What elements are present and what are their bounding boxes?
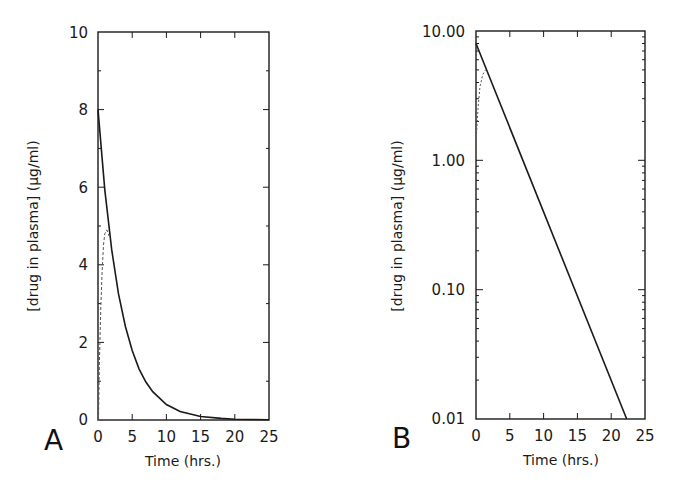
- y-tick-label: 0.10: [432, 281, 465, 299]
- x-tick-label: 10: [157, 428, 176, 446]
- x-tick-label: 0: [93, 428, 103, 446]
- y-tick-label: 8: [78, 101, 88, 119]
- panel-b-letter: B: [392, 422, 411, 455]
- panel-a-y-ticks: [98, 71, 269, 381]
- panel-b-dashed-curve: [477, 70, 486, 134]
- y-tick-label: 10.00: [422, 23, 465, 41]
- x-tick-label: 20: [225, 428, 244, 446]
- panel-a: 0 5 10 15 20 25 0 2 4 6 8 10 Time (hrs.)…: [25, 24, 279, 469]
- panel-a-letter: A: [44, 424, 63, 457]
- x-tick-label: 5: [127, 428, 137, 446]
- panel-a-x-ticks: [132, 32, 235, 420]
- panel-b: 0 5 10 15 20 25 0.01 0.10 1.00 10.00 Tim…: [389, 23, 655, 468]
- x-tick-label: 25: [259, 428, 278, 446]
- panel-a-x-axis-title: Time (hrs.): [144, 453, 221, 469]
- panel-a-dashed-curve: [99, 230, 109, 420]
- panel-a-x-tick-labels: 0 5 10 15 20 25: [93, 428, 278, 446]
- y-tick-label: 6: [78, 179, 88, 197]
- x-tick-label: 10: [534, 427, 553, 445]
- y-tick-label: 1.00: [432, 152, 465, 170]
- panel-b-solid-line: [476, 44, 627, 420]
- panel-b-x-tick-labels: 0 5 10 15 20 25: [471, 427, 654, 445]
- panel-b-y-axis-title: [drug in plasma] (μg/ml): [389, 140, 405, 311]
- panel-b-x-axis-title: Time (hrs.): [522, 452, 599, 468]
- x-tick-label: 20: [602, 427, 621, 445]
- y-tick-label: 0.01: [432, 410, 465, 428]
- panel-a-y-tick-labels: 0 2 4 6 8 10: [69, 24, 88, 429]
- x-tick-label: 15: [191, 428, 210, 446]
- y-tick-label: 10: [69, 24, 88, 42]
- y-tick-label: 0: [78, 411, 88, 429]
- panel-b-y-ticks: [476, 37, 645, 380]
- y-tick-label: 2: [78, 334, 88, 352]
- x-tick-label: 0: [471, 427, 481, 445]
- x-tick-label: 15: [568, 427, 587, 445]
- x-tick-label: 5: [505, 427, 515, 445]
- figure: 0 5 10 15 20 25 0 2 4 6 8 10 Time (hrs.)…: [0, 0, 677, 500]
- panel-a-y-axis-title: [drug in plasma] (μg/ml): [25, 140, 41, 311]
- panel-a-solid-curve: [98, 110, 269, 420]
- panel-b-y-tick-labels: 0.01 0.10 1.00 10.00: [422, 23, 465, 428]
- y-tick-label: 4: [78, 256, 88, 274]
- x-tick-label: 25: [635, 427, 654, 445]
- panel-b-x-ticks: [510, 31, 611, 419]
- panel-b-frame: [476, 31, 645, 419]
- panel-a-frame: [98, 32, 269, 420]
